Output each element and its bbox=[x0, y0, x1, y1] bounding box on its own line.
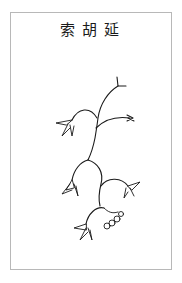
tuber-icon bbox=[104, 208, 124, 229]
flower-icon bbox=[56, 120, 140, 240]
plant-illustration bbox=[0, 0, 182, 283]
stem-icon bbox=[72, 77, 134, 224]
